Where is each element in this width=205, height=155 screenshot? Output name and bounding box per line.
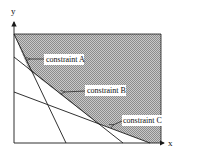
- constraint-a-label: constraint A: [46, 55, 85, 64]
- x-axis-label: x: [168, 138, 173, 148]
- constraint-c-label: constraint C: [123, 116, 162, 125]
- constraint-b-label: constraint B: [87, 86, 126, 95]
- y-axis-label: y: [11, 6, 16, 16]
- constraint-diagram: y x constraint A constraint B constraint…: [0, 0, 205, 155]
